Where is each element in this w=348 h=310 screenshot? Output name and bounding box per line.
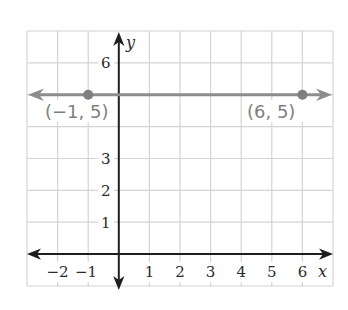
x-tick-5: 5 — [267, 263, 277, 281]
y-tick-6: 6 — [101, 54, 111, 72]
x-tick-3: 3 — [206, 263, 216, 281]
x-tick-1: 1 — [145, 263, 155, 281]
grid — [27, 31, 333, 286]
y-axis — [113, 32, 124, 290]
point-6-5 — [297, 90, 307, 100]
point-neg1-5 — [83, 90, 93, 100]
y-tick-2: 2 — [101, 182, 111, 200]
coordinate-plane: y x 6 3 2 1 −2 −1 1 2 3 4 5 6 (−1, 5) (6… — [0, 0, 348, 310]
x-tick-neg1: −1 — [75, 263, 97, 281]
x-tick-neg2: −2 — [47, 263, 69, 281]
point-label-a: (−1, 5) — [45, 101, 108, 122]
x-tick-4: 4 — [236, 263, 246, 281]
y-tick-1: 1 — [101, 214, 111, 232]
x-tick-6: 6 — [298, 263, 308, 281]
point-label-b: (6, 5) — [247, 101, 295, 122]
x-axis-label: x — [318, 262, 327, 281]
y-axis-label: y — [125, 33, 136, 52]
x-tick-2: 2 — [175, 263, 185, 281]
y-tick-3: 3 — [101, 150, 111, 168]
